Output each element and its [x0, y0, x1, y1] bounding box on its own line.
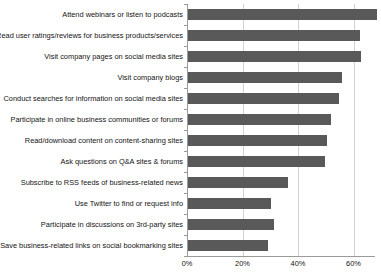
x-tick-label: 60%: [346, 259, 361, 269]
bar-fill: [188, 156, 325, 167]
y-tick-mark: [184, 214, 187, 215]
x-tick-label: 40%: [291, 259, 306, 269]
bar-fill: [188, 51, 361, 62]
y-tick-mark: [184, 4, 187, 5]
bar: [188, 177, 288, 188]
category-label: Save business-related links on social bo…: [0, 241, 183, 250]
x-axis-tick-labels: 0%20%40%60%: [0, 259, 381, 273]
bar: [188, 219, 274, 230]
bar: [188, 114, 331, 125]
category-label: Subscribe to RSS feeds of business-relat…: [21, 178, 183, 187]
x-tick-label: 0%: [182, 259, 193, 269]
category-label: Participate in online business communiti…: [10, 115, 183, 124]
bar-fill: [188, 135, 327, 146]
y-tick-mark: [184, 88, 187, 89]
bar-fill: [188, 72, 342, 83]
category-label: Conduct searches for information on soci…: [3, 94, 183, 103]
x-axis-line: [187, 256, 375, 257]
bar: [188, 198, 271, 209]
bar: [188, 72, 342, 83]
bar-fill: [188, 219, 274, 230]
bar-fill: [188, 240, 268, 251]
bar: [188, 240, 268, 251]
bar: [188, 9, 377, 20]
bar-fill: [188, 114, 331, 125]
category-axis-labels: Attend webinars or listen to podcastsRea…: [0, 0, 183, 277]
category-label: Read/download content on content-sharing…: [25, 136, 183, 145]
gridline-40pct: [298, 4, 299, 256]
category-label: Read user ratings/reviews for business p…: [0, 31, 183, 40]
bar: [188, 51, 361, 62]
y-tick-mark: [184, 235, 187, 236]
bar-fill: [188, 30, 360, 41]
bar: [188, 93, 339, 104]
y-tick-mark: [184, 25, 187, 26]
gridline-60pct: [354, 4, 355, 256]
plot-area: [187, 4, 375, 256]
y-tick-mark: [184, 130, 187, 131]
bar: [188, 135, 327, 146]
bar-fill: [188, 9, 377, 20]
category-label: Visit company pages on social media site…: [44, 52, 183, 61]
y-tick-mark: [184, 172, 187, 173]
bar-fill: [188, 177, 288, 188]
category-label: Use Twitter to find or request info: [75, 199, 183, 208]
category-label: Attend webinars or listen to podcasts: [62, 10, 183, 19]
y-tick-mark: [184, 193, 187, 194]
category-label: Participate in discussions on 3rd-party …: [41, 220, 183, 229]
y-tick-mark: [184, 46, 187, 47]
horizontal-bar-chart: Attend webinars or listen to podcastsRea…: [0, 0, 381, 277]
y-tick-mark: [184, 151, 187, 152]
x-tick-label: 20%: [235, 259, 250, 269]
category-label: Visit company blogs: [117, 73, 183, 82]
bar-fill: [188, 93, 339, 104]
y-tick-mark: [184, 67, 187, 68]
bar: [188, 156, 325, 167]
category-label: Ask questions on Q&A sites & forums: [61, 157, 183, 166]
bar: [188, 30, 360, 41]
y-tick-mark: [184, 109, 187, 110]
bar-fill: [188, 198, 271, 209]
